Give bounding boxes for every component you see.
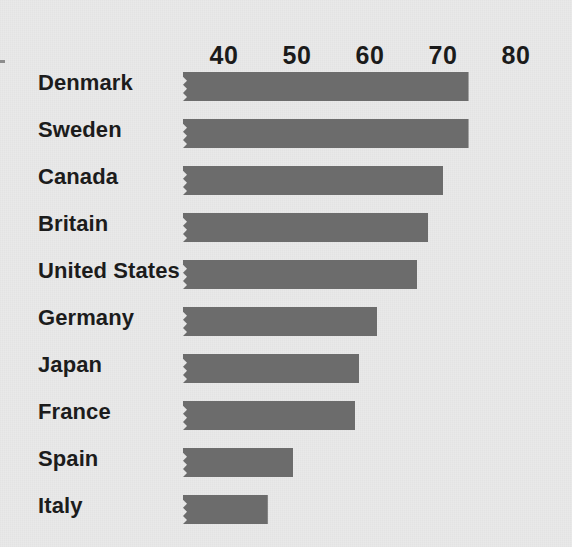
bar-germany [183,307,377,336]
bar-label-britain: Britain [38,211,108,237]
bar-label-spain: Spain [38,446,98,472]
bar-row: Italy [0,488,572,535]
bar-britain [183,213,428,242]
bar-spain [183,448,293,477]
bar-chart: 4050607080 DenmarkSwedenCanadaBritainUni… [0,0,572,547]
page-edge-mark [0,60,5,63]
bar-canada [183,166,443,195]
bar-sweden [183,119,469,148]
bar-japan [183,354,359,383]
bar-label-germany: Germany [38,305,134,331]
bar-label-denmark: Denmark [38,70,133,96]
bar-label-france: France [38,399,111,425]
bar-row: Sweden [0,112,572,159]
bar-italy [183,495,268,524]
bar-row: Germany [0,300,572,347]
bar-row: France [0,394,572,441]
bar-united-states [183,260,417,289]
bar-row: Britain [0,206,572,253]
bar-row: United States [0,253,572,300]
bar-row: Denmark [0,65,572,112]
bar-row: Canada [0,159,572,206]
bar-label-united-states: United States [38,258,180,284]
bar-denmark [183,72,469,101]
bar-france [183,401,355,430]
bar-label-canada: Canada [38,164,118,190]
bar-label-japan: Japan [38,352,102,378]
bar-row: Japan [0,347,572,394]
bar-label-sweden: Sweden [38,117,122,143]
bar-label-italy: Italy [38,493,83,519]
bar-row: Spain [0,441,572,488]
